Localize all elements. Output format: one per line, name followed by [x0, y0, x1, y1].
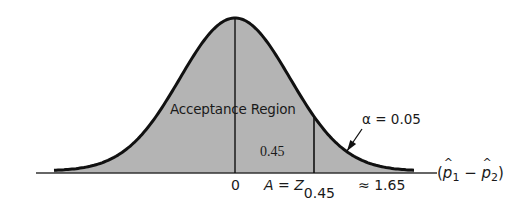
mean-tick-label: 0 [231, 178, 240, 192]
x-axis-label: (p1 − p2) [437, 166, 504, 183]
x-axis-minus: − [459, 164, 481, 182]
critical-subscript: 0.45 [304, 185, 335, 201]
x-axis-p2: p [482, 166, 492, 181]
alpha-arrow-icon [347, 129, 362, 151]
x-axis-close-paren: ) [498, 164, 504, 182]
acceptance-region-label: Acceptance Region [170, 103, 296, 117]
critical-z: Z [294, 177, 304, 193]
critical-approx-value: ≈ 1.65 [358, 178, 405, 192]
shaded-acceptance-area [54, 18, 414, 173]
area-value-label: 0.45 [260, 145, 285, 159]
normal-distribution-diagram: Acceptance Region 0.45 α = 0.05 0 A = Z0… [0, 0, 531, 215]
x-axis-sub2: 2 [491, 171, 498, 184]
critical-value-expression: A = Z0.45 [264, 178, 335, 192]
critical-prefix: A = [264, 177, 294, 193]
alpha-label: α = 0.05 [362, 113, 421, 127]
x-axis-p1: p [443, 166, 453, 181]
